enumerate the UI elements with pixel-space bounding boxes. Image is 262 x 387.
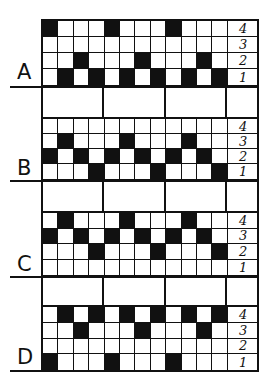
row-number-label: 3 <box>228 229 259 245</box>
grid-cell <box>120 323 135 339</box>
grid-cell <box>89 339 104 355</box>
block-letter-b: B <box>17 158 31 179</box>
grid-cell <box>151 229 166 245</box>
grid-cell <box>58 307 73 323</box>
grid-cell <box>74 69 89 85</box>
grid-cell <box>182 119 197 134</box>
grid-cell <box>197 164 212 179</box>
grid-cell <box>197 323 212 339</box>
grid-cell <box>105 213 120 229</box>
grid-cell <box>166 260 181 276</box>
grid-cell <box>43 339 58 355</box>
grid-cell <box>74 134 89 149</box>
grid-cell <box>166 134 181 149</box>
grid-cell <box>151 149 166 164</box>
grid-cell <box>43 213 58 229</box>
grid-cell <box>166 149 181 164</box>
grid-cell <box>89 69 104 85</box>
grid-cell <box>135 69 150 85</box>
grid-cell <box>135 260 150 276</box>
grid-cell <box>197 21 212 37</box>
grid-cell <box>166 119 181 134</box>
grid-cell <box>212 213 227 229</box>
grid-cell <box>105 354 120 370</box>
block-d: 4321 <box>41 305 257 372</box>
baseline-d <box>10 370 259 372</box>
grid-cell <box>74 244 89 260</box>
grid-cell <box>135 53 150 69</box>
grid-cell <box>58 69 73 85</box>
grid-cell <box>43 134 58 149</box>
grid-cell <box>89 354 104 370</box>
frame-divider-1 <box>102 277 104 305</box>
grid-cell <box>43 119 58 134</box>
grid-cell <box>212 164 227 179</box>
grid-cell <box>120 149 135 164</box>
grid-cell <box>182 229 197 245</box>
grid-cell <box>74 354 89 370</box>
baseline-c <box>10 276 259 278</box>
grid-cell <box>135 354 150 370</box>
grid-cell <box>197 354 212 370</box>
row-number-label: 3 <box>228 134 259 149</box>
grid-cell <box>105 134 120 149</box>
grid-cell <box>105 53 120 69</box>
grid-cell <box>166 244 181 260</box>
grid-cell <box>120 53 135 69</box>
grid-cell <box>105 323 120 339</box>
block-a: 4321 <box>41 19 257 87</box>
row-number-label: 4 <box>228 119 259 134</box>
grid-cell <box>89 323 104 339</box>
grid-cell <box>197 229 212 245</box>
grid-cell <box>197 149 212 164</box>
grid-cell <box>43 307 58 323</box>
grid-cell <box>120 260 135 276</box>
row-number-label: 4 <box>228 213 259 229</box>
grid-cell <box>105 119 120 134</box>
row-number-label: 1 <box>228 164 259 179</box>
grid-cell <box>89 53 104 69</box>
grid-cell <box>135 339 150 355</box>
grid-cell <box>135 307 150 323</box>
grid-cell <box>182 244 197 260</box>
grid-cell <box>89 37 104 53</box>
grid-cell <box>135 213 150 229</box>
row-number-label: 2 <box>228 149 259 164</box>
grid-cell <box>151 323 166 339</box>
grid-cell <box>120 21 135 37</box>
grid-cell <box>212 69 227 85</box>
grid-cell <box>212 21 227 37</box>
grid-cell <box>105 164 120 179</box>
grid-cell <box>89 307 104 323</box>
row-number-label: 3 <box>228 37 259 53</box>
grid-cell <box>43 21 58 37</box>
grid-cell <box>182 134 197 149</box>
grid-cell <box>151 213 166 229</box>
grid-cell <box>212 323 227 339</box>
frame-divider-2 <box>164 87 166 117</box>
grid-cell <box>182 213 197 229</box>
grid-cell <box>89 260 104 276</box>
grid-cell <box>197 53 212 69</box>
grid-cell <box>74 53 89 69</box>
grid-cell <box>212 53 227 69</box>
grid-cell <box>74 323 89 339</box>
grid-cell <box>166 21 181 37</box>
grid-cell <box>197 134 212 149</box>
grid-cell <box>105 244 120 260</box>
frame-divider-3 <box>225 181 227 211</box>
grid-cell <box>120 339 135 355</box>
grid-cell <box>74 149 89 164</box>
grid-cell <box>74 339 89 355</box>
grid-cell <box>151 244 166 260</box>
grid-cell <box>74 260 89 276</box>
grid-cell <box>43 164 58 179</box>
grid-cell <box>151 69 166 85</box>
row-number-label: 3 <box>228 323 259 339</box>
grid-cell <box>197 307 212 323</box>
grid-cell <box>89 213 104 229</box>
row-number-label: 1 <box>228 354 259 370</box>
grid-cell <box>197 260 212 276</box>
baseline-b <box>10 180 259 182</box>
grid-cell <box>120 244 135 260</box>
